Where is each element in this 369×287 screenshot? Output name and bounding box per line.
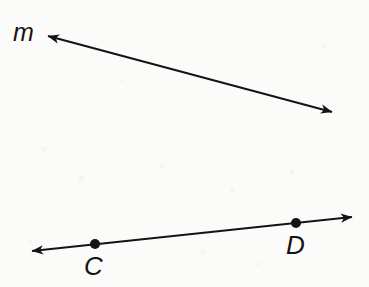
diagram-canvas: [0, 0, 369, 287]
point-c-dot: [90, 239, 100, 249]
point-d-dot: [291, 218, 301, 228]
point-c-label: C: [84, 253, 103, 279]
line-m-label: m: [13, 20, 34, 45]
geometry-figure: m C D: [0, 0, 369, 287]
line-m-group: [48, 36, 332, 112]
point-d-label: D: [286, 232, 305, 258]
line-m: [48, 36, 332, 112]
